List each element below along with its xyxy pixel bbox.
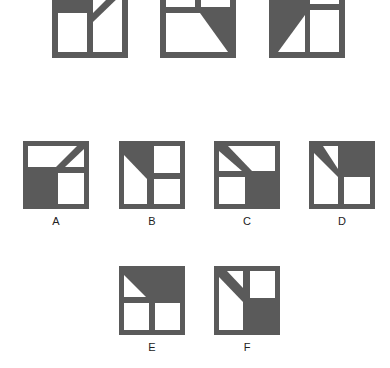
option-b-label: B xyxy=(142,215,162,227)
option-f-label: F xyxy=(237,341,257,353)
option-d-figure[interactable] xyxy=(309,141,375,209)
sequence-figure-2 xyxy=(160,0,236,58)
option-e-label: E xyxy=(142,341,162,353)
option-f-figure[interactable] xyxy=(214,266,280,335)
sequence-figure-1 xyxy=(52,0,128,58)
option-a-figure[interactable] xyxy=(23,141,89,209)
sequence-figure-3 xyxy=(269,0,345,58)
option-a-label: A xyxy=(46,215,66,227)
option-e-figure[interactable] xyxy=(119,266,185,335)
option-c-label: C xyxy=(237,215,257,227)
option-d-label: D xyxy=(332,215,352,227)
option-c-figure[interactable] xyxy=(214,141,280,209)
option-b-figure[interactable] xyxy=(119,141,185,209)
